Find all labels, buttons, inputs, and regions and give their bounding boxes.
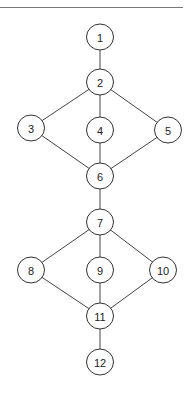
node-10: 10 <box>150 257 177 283</box>
node-5: 5 <box>155 117 182 143</box>
node-label: 5 <box>165 125 171 137</box>
node-1: 1 <box>87 24 114 50</box>
node-label: 6 <box>97 171 103 183</box>
node-3: 3 <box>18 115 45 141</box>
node-label: 12 <box>94 357 106 369</box>
node-9: 9 <box>87 257 114 283</box>
node-7: 7 <box>87 209 114 235</box>
node-label: 10 <box>157 265 169 277</box>
node-label: 4 <box>97 125 103 137</box>
node-12: 12 <box>87 349 114 375</box>
node-label: 11 <box>94 311 105 323</box>
node-label: 8 <box>28 265 34 277</box>
node-label: 7 <box>97 217 103 229</box>
node-label: 1 <box>97 32 103 44</box>
node-8: 8 <box>18 257 45 283</box>
node-label: 2 <box>97 77 103 89</box>
node-label: 3 <box>28 123 34 135</box>
node-label: 9 <box>97 265 103 277</box>
node-6: 6 <box>87 163 114 189</box>
flow-graph-diagram: 123456789101112 <box>0 0 190 400</box>
node-2: 2 <box>87 69 114 95</box>
node-11: 11 <box>87 303 114 329</box>
node-4: 4 <box>87 117 114 143</box>
